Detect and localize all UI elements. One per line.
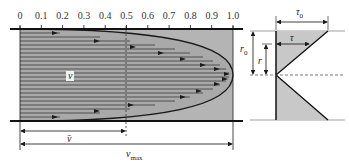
pipe-flow-diagram: 0 0.1 0.2 0.3 0.4 0.5 0.6 0.7 0.8 0.9 1.… [0,0,349,167]
tick-label: 0 [18,10,23,21]
mean-velocity-label: v̄ [67,134,71,144]
tick-label: 0.1 [35,10,48,21]
diagram-graphics [0,0,349,167]
velocity-label: v [66,71,74,81]
tick-label: 0.5 [120,10,133,21]
tick-label: 0.8 [184,10,197,21]
tick-label: 0.9 [205,10,218,21]
r-label: r [258,56,262,66]
tau0-label: τ0 [296,7,303,20]
r0-subscript: 0 [244,49,248,57]
max-velocity-subscript: max [130,154,142,162]
tau-label: τ [290,33,294,43]
r0-label: r0 [240,44,247,57]
max-velocity-label: vmax [126,149,143,162]
tick-label: 0.2 [56,10,69,21]
tick-label: 0.7 [163,10,176,21]
tick-label: 0.3 [78,10,91,21]
tick-label: 0.4 [99,10,112,21]
tau0-subscript: 0 [300,12,304,20]
tick-label: 1.0 [227,10,240,21]
tick-label: 0.6 [142,10,155,21]
